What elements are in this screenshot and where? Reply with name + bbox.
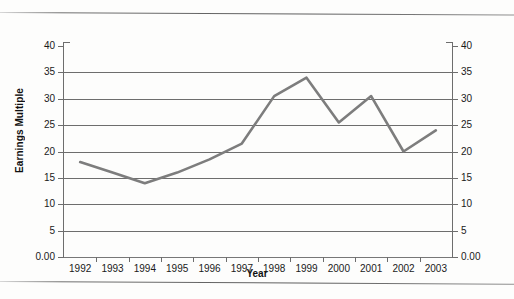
y-label-left-5: 5 [49, 226, 55, 236]
line-chart: Earnings Multiple 0.00510152025303540 0.… [0, 16, 514, 278]
y-tick-right-10 [452, 204, 458, 205]
y-label-left-0: 0.00 [36, 252, 55, 262]
y-label-right-5: 5 [461, 226, 467, 236]
y-label-right-30: 30 [461, 94, 472, 104]
x-tick-2 [129, 257, 130, 262]
y-label-right-20: 20 [461, 147, 472, 157]
y-tick-right-35 [452, 72, 458, 73]
x-tick-6 [258, 257, 259, 262]
x-tick-10 [387, 257, 388, 262]
page-rule-top [0, 12, 514, 16]
y-tick-right-0 [452, 257, 458, 258]
y-label-left-40: 40 [44, 41, 55, 51]
x-tick-11 [420, 257, 421, 262]
plot-area: 0.00510152025303540 0.00510152025303540 … [64, 46, 452, 257]
y-label-left-35: 35 [44, 67, 55, 77]
y-label-right-15: 15 [461, 173, 472, 183]
x-tick-9 [355, 257, 356, 262]
y-axis-right-cap [446, 42, 452, 43]
y-axis-right-spine [452, 42, 453, 257]
page-rule-bottom [0, 281, 514, 285]
y-tick-left-0 [58, 257, 64, 258]
y-label-right-25: 25 [461, 120, 472, 130]
x-tick-1 [96, 257, 97, 262]
y-label-left-20: 20 [44, 147, 55, 157]
y-axis-title: Earnings Multiple [14, 88, 25, 173]
y-label-right-40: 40 [461, 41, 472, 51]
y-tick-right-40 [452, 46, 458, 47]
y-label-left-10: 10 [44, 199, 55, 209]
y-label-left-30: 30 [44, 94, 55, 104]
y-label-right-0: 0.00 [461, 252, 480, 262]
series-line-earnings-multiple [64, 46, 452, 257]
scanned-page: Earnings Multiple 0.00510152025303540 0.… [0, 0, 514, 299]
y-tick-right-15 [452, 178, 458, 179]
y-tick-right-5 [452, 231, 458, 232]
y-tick-right-20 [452, 152, 458, 153]
x-tick-4 [193, 257, 194, 262]
y-tick-right-30 [452, 99, 458, 100]
y-label-right-10: 10 [461, 199, 472, 209]
y-label-right-35: 35 [461, 67, 472, 77]
y-tick-right-25 [452, 125, 458, 126]
y-axis-left-cap [64, 42, 70, 43]
x-axis-title: Year [0, 268, 514, 279]
x-tick-8 [323, 257, 324, 262]
x-tick-7 [290, 257, 291, 262]
y-label-left-15: 15 [44, 173, 55, 183]
x-tick-3 [161, 257, 162, 262]
x-tick-5 [226, 257, 227, 262]
y-label-left-25: 25 [44, 120, 55, 130]
